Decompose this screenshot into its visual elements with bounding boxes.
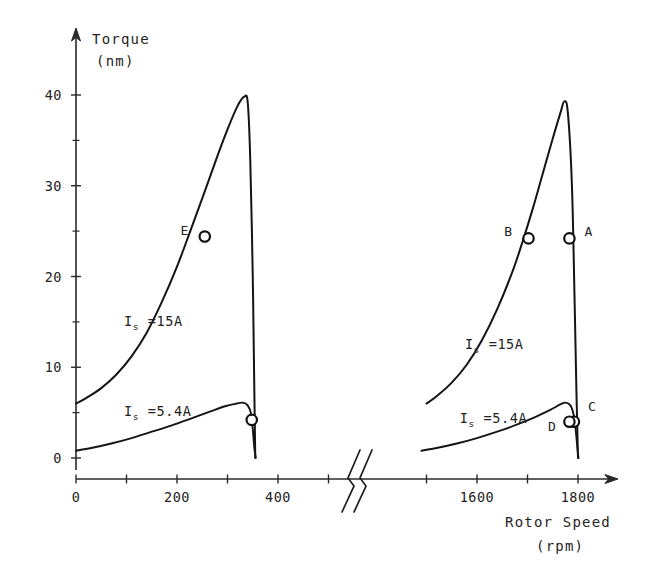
operating-point-a — [564, 233, 574, 243]
axis-break-symbol — [342, 450, 372, 512]
operating-point-d-label: D — [548, 419, 556, 434]
operating-point-c-label: C — [588, 399, 596, 414]
x-tick-label-right: 1600 — [460, 489, 495, 505]
operating-point-d — [564, 417, 574, 427]
label-left-54a: Is =5.4A — [124, 403, 191, 422]
label-right-15a: Is =15A — [465, 336, 524, 355]
operating-point-e — [200, 231, 210, 241]
axis-tick-labels: 010203040020040016001800 — [45, 87, 596, 505]
x-tick-label-left: 0 — [72, 489, 81, 505]
label-right-54a: Is =5.4A — [460, 410, 527, 429]
operating-point-a-label: A — [584, 224, 592, 239]
series-annotations: Is =15AIs =5.4AIs =15AIs =5.4A — [124, 313, 527, 429]
operating-point-b-label: B — [504, 224, 512, 239]
y-axis-unit: (nm) — [96, 53, 135, 69]
y-tick-label: 30 — [45, 178, 62, 194]
y-tick-label: 40 — [45, 87, 62, 103]
axis-break-slash-1 — [342, 450, 360, 512]
x-tick-label-right: 1800 — [561, 489, 596, 505]
y-axis-title: Torque — [92, 31, 150, 47]
operating-point-e-label: E — [180, 223, 188, 238]
curve-right-15A — [427, 101, 579, 458]
chart-svg: 010203040020040016001800 Is =15AIs =5.4A… — [0, 0, 650, 581]
operating-point-unlabeled — [247, 415, 257, 425]
x-tick-label-left: 200 — [164, 489, 190, 505]
x-axis-title: Rotor Speed — [505, 514, 611, 530]
torque-speed-chart: 010203040020040016001800 Is =15AIs =5.4A… — [0, 0, 650, 581]
operating-point-b — [523, 233, 533, 243]
label-left-15a: Is =15A — [124, 313, 183, 332]
y-tick-label: 10 — [45, 359, 62, 375]
x-axis-unit: (rpm) — [536, 538, 584, 554]
y-tick-label: 0 — [53, 450, 62, 466]
y-tick-label: 20 — [45, 269, 62, 285]
x-tick-label-left: 400 — [265, 489, 291, 505]
